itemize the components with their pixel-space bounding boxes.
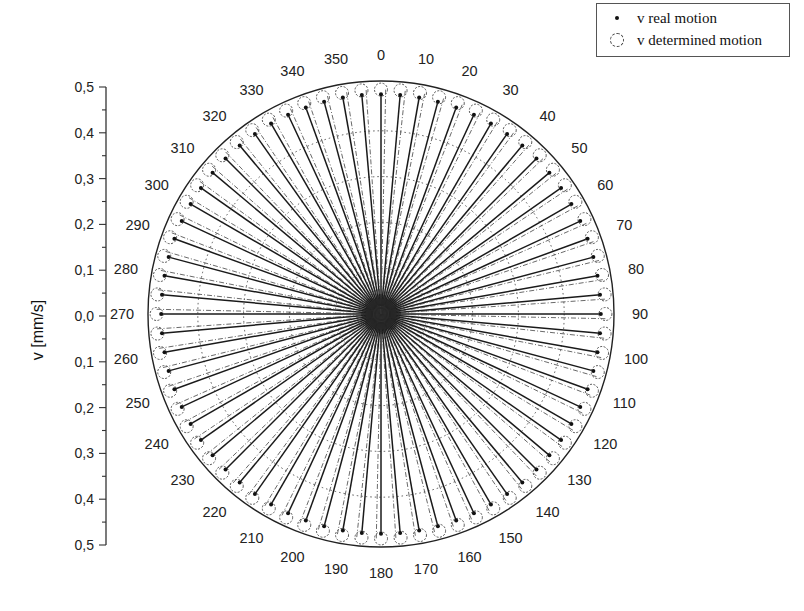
angle-tick-label: 40 <box>539 108 555 124</box>
legend-entry-real: v real motion <box>597 7 717 29</box>
open-circle-icon <box>597 33 637 47</box>
angle-tick-label: 60 <box>597 177 613 193</box>
angle-tick-label: 330 <box>239 82 263 98</box>
angle-tick-label: 180 <box>369 565 393 581</box>
angle-tick-label: 200 <box>280 549 304 565</box>
y-tick-label: 0,2 <box>75 400 95 416</box>
angle-tick-label: 220 <box>202 504 226 520</box>
angle-tick-label: 240 <box>145 436 169 452</box>
legend: v real motion v determined motion <box>596 3 790 57</box>
y-tick-label: 0,1 <box>75 354 95 370</box>
angle-tick-label: 190 <box>324 561 348 577</box>
measurement-spokes <box>157 90 606 539</box>
angle-tick-label: 130 <box>567 472 591 488</box>
angle-tick-label: 110 <box>613 395 636 411</box>
polar-chart: 0,50,40,30,20,10,00,10,20,30,40,5 010203… <box>0 0 804 611</box>
y-tick-label: 0,5 <box>75 537 95 553</box>
angle-tick-label: 230 <box>170 472 194 488</box>
angle-tick-label: 350 <box>324 51 348 67</box>
angle-tick-label: 50 <box>571 140 587 156</box>
angle-tick-label: 270 <box>110 306 134 322</box>
legend-label: v real motion <box>637 10 717 27</box>
radial-axis: 0,50,40,30,20,10,00,10,20,30,40,5 <box>75 79 106 553</box>
y-tick-label: 0,5 <box>75 79 95 95</box>
angle-tick-label: 320 <box>202 108 226 124</box>
y-tick-label: 0,0 <box>75 308 95 324</box>
angle-tick-label: 120 <box>593 436 617 452</box>
angle-tick-label: 160 <box>457 549 481 565</box>
angle-tick-label: 90 <box>632 306 648 322</box>
angle-tick-label: 140 <box>535 504 559 520</box>
y-axis-label: v [mm/s] <box>29 300 47 360</box>
filled-dot-icon <box>597 16 637 20</box>
angle-tick-label: 210 <box>239 530 263 546</box>
angle-tick-label: 310 <box>170 140 194 156</box>
angle-tick-label: 150 <box>498 530 522 546</box>
legend-entry-determined: v determined motion <box>597 29 762 51</box>
angle-tick-label: 80 <box>628 261 644 277</box>
angle-tick-label: 170 <box>414 561 438 577</box>
angle-tick-label: 290 <box>126 217 150 233</box>
y-tick-label: 0,3 <box>75 445 95 461</box>
y-tick-label: 0,2 <box>75 216 95 232</box>
angle-tick-label: 340 <box>280 63 304 79</box>
angle-tick-label: 260 <box>114 351 138 367</box>
angle-tick-label: 10 <box>418 51 434 67</box>
angle-tick-label: 280 <box>114 261 138 277</box>
y-tick-label: 0,3 <box>75 171 95 187</box>
y-tick-label: 0,1 <box>75 262 95 278</box>
angle-tick-label: 250 <box>126 395 150 411</box>
angle-tick-label: 0 <box>377 47 385 63</box>
y-tick-label: 0,4 <box>75 125 95 141</box>
angle-tick-label: 300 <box>145 177 169 193</box>
angle-tick-label: 70 <box>616 217 632 233</box>
angle-tick-label: 30 <box>502 82 518 98</box>
angle-tick-label: 20 <box>462 63 478 79</box>
legend-label: v determined motion <box>637 32 762 49</box>
angle-tick-label: 100 <box>624 351 648 367</box>
y-tick-label: 0,4 <box>75 491 95 507</box>
